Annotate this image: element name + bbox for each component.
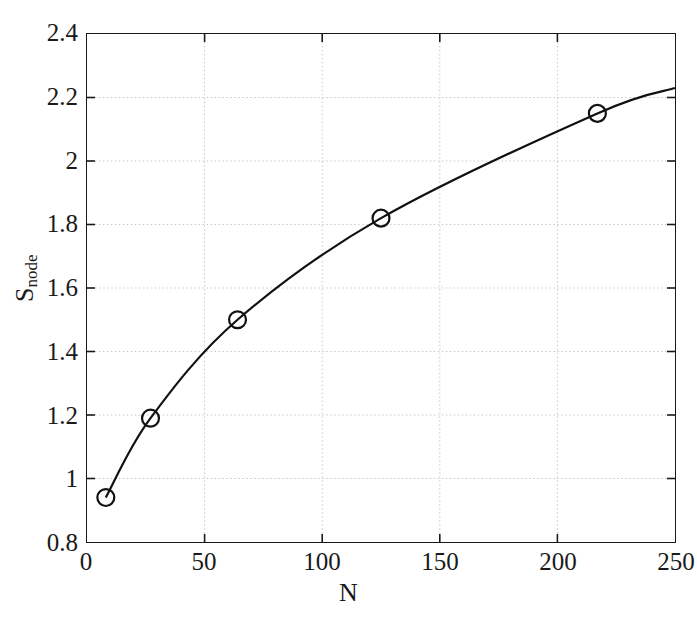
- x-tick-label: 150: [421, 549, 459, 574]
- y-tick-label: 1.4: [8, 339, 78, 364]
- data-point-marker: [142, 410, 159, 427]
- y-axis-title-base: S: [10, 287, 39, 301]
- y-tick-label: 2.2: [8, 84, 78, 109]
- y-tick-label: 1: [8, 466, 78, 491]
- x-tick-label: 0: [80, 549, 93, 574]
- x-tick-label: 100: [303, 549, 341, 574]
- x-tick-label: 250: [657, 549, 695, 574]
- data-point-marker: [229, 311, 246, 328]
- data-point-marker: [589, 105, 606, 122]
- y-tick-label: 0.8: [8, 530, 78, 555]
- x-axis-title: N: [0, 578, 697, 608]
- data-point-marker: [97, 489, 114, 506]
- chart-figure: 0.811.21.41.61.822.22.4 050100150200250 …: [0, 0, 697, 617]
- data-series-layer: [87, 34, 675, 542]
- y-axis-title-subscript: node: [22, 254, 41, 287]
- data-point-marker: [373, 210, 390, 227]
- y-tick-label: 2.4: [8, 20, 78, 45]
- series-line: [106, 88, 675, 498]
- y-axis-title: Snode: [10, 228, 42, 328]
- y-tick-label: 1.2: [8, 403, 78, 428]
- y-tick-label: 2: [8, 148, 78, 173]
- x-tick-label: 200: [539, 549, 577, 574]
- plot-area: [86, 33, 676, 543]
- x-tick-label: 50: [192, 549, 217, 574]
